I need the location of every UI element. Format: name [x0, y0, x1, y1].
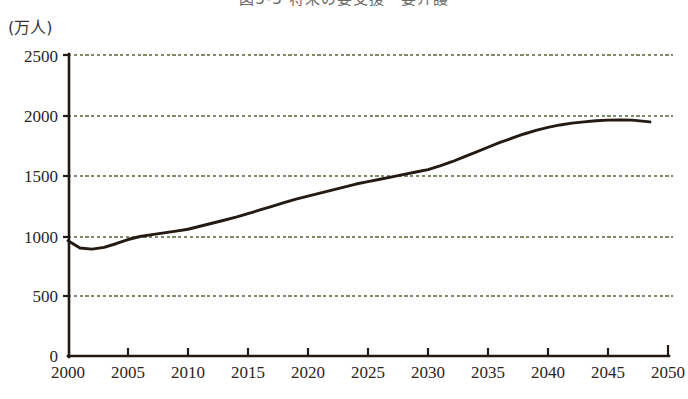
x-tick-label-2025: 2025 — [338, 363, 398, 383]
x-tick-label-2005: 2005 — [98, 363, 158, 383]
y-tick-label-2000: 2000 — [0, 107, 58, 127]
chart-figure: 図3-3 将来の要支援・要介護 (万人) — [0, 0, 688, 399]
x-tick-label-2000: 2000 — [38, 363, 98, 383]
x-tick-label-2010: 2010 — [158, 363, 218, 383]
x-tick-label-2035: 2035 — [458, 363, 518, 383]
data-series-line — [68, 120, 650, 249]
y-tick-label-1500: 1500 — [0, 167, 58, 187]
x-tick-label-2030: 2030 — [398, 363, 458, 383]
y-tick-label-1000: 1000 — [0, 228, 58, 248]
x-tick-label-2045: 2045 — [578, 363, 638, 383]
x-tick-label-2020: 2020 — [278, 363, 338, 383]
y-tick-label-500: 500 — [0, 287, 58, 307]
x-tick-marks — [128, 345, 668, 356]
chart-plot-area — [0, 0, 688, 399]
axis-lines — [68, 54, 669, 357]
x-tick-label-2050: 2050 — [638, 363, 688, 383]
x-tick-label-2015: 2015 — [218, 363, 278, 383]
gridlines — [68, 55, 673, 296]
y-tick-label-2500: 2500 — [0, 47, 58, 67]
x-tick-label-2040: 2040 — [518, 363, 578, 383]
